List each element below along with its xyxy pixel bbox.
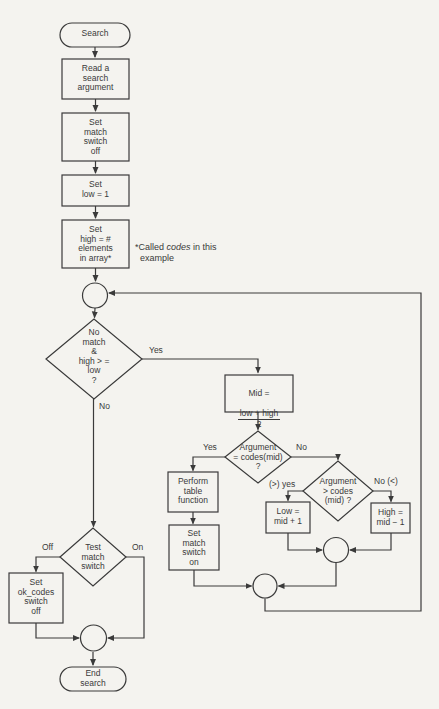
connector-merge-bottom	[81, 625, 107, 651]
edge-high-mid-to-merge	[350, 533, 391, 550]
flowchart-page: Search Read a search argument Set match …	[0, 0, 439, 709]
edge-off-to-ok-codes	[36, 557, 60, 572]
edge-merge-right-to-center	[279, 563, 337, 587]
footnote: *Called codes in this example	[135, 242, 217, 264]
argument-greater-decision-label: Argument > codes (mid) ?	[303, 477, 373, 506]
mid-label: Mid = low + high 2	[225, 379, 293, 430]
mid-fraction-denominator: 2	[257, 420, 262, 430]
edge-label-yes-equal: Yes	[203, 443, 217, 452]
footnote-prefix: *Called	[135, 242, 167, 252]
footnote-line1: *Called codes in this	[135, 242, 217, 253]
edge-label-no-lt: No (<)	[374, 477, 398, 486]
connector-loop-top	[83, 283, 108, 308]
edge-label-gt-yes: (>) yes	[269, 480, 295, 489]
set-low-label: Set low = 1	[62, 180, 129, 199]
edge-label-off: Off	[42, 543, 53, 552]
footnote-suffix: in this	[191, 242, 217, 252]
perform-table-label: Perform table function	[168, 477, 218, 506]
argument-equal-decision-label: Argument = codes(mid) ?	[223, 443, 293, 472]
connector-merge-right	[324, 538, 349, 563]
no-match-decision-label: No match & high > = low ?	[46, 328, 142, 385]
set-low-mid-label: Low = mid + 1	[266, 507, 310, 526]
edge-label-no-equal: No	[296, 443, 307, 452]
edge-match-on-to-merge	[194, 570, 252, 586]
test-match-decision-label: Test match switch	[60, 543, 126, 572]
set-ok-codes-label: Set ok_codes switch off	[9, 578, 63, 616]
edge-equal-no-to-greater	[291, 457, 338, 460]
edge-equal-yes-to-perform	[193, 457, 225, 471]
set-match-off-label: Set match switch off	[62, 118, 129, 156]
set-high-label: Set high = # elements in array*	[62, 225, 129, 263]
footnote-emphasis: codes	[167, 242, 191, 252]
edge-greater-yes-to-low-mid	[288, 491, 303, 501]
connector-merge-center	[253, 574, 277, 598]
edge-label-on: On	[132, 543, 143, 552]
mid-fraction: low + high 2	[238, 409, 281, 430]
set-match-on-label: Set match switch on	[169, 529, 219, 567]
edge-greater-no-to-high-mid	[373, 491, 391, 502]
end-label: End search	[60, 669, 126, 688]
edge-ok-codes-to-merge-bottom	[36, 623, 79, 638]
edge-label-yes-main: Yes	[149, 346, 163, 355]
edge-low-mid-to-merge	[288, 533, 322, 550]
read-argument-label: Read a search argument	[62, 64, 129, 93]
edge-label-no-main: No	[99, 402, 110, 411]
footnote-line2: example	[135, 253, 217, 264]
set-high-mid-label: High = mid − 1	[371, 508, 410, 527]
edge-yes-to-mid	[142, 359, 258, 373]
start-label: Search	[60, 29, 130, 39]
mid-label-line1: Mid =	[225, 389, 293, 399]
edge-loop-to-decision	[95, 308, 96, 318]
